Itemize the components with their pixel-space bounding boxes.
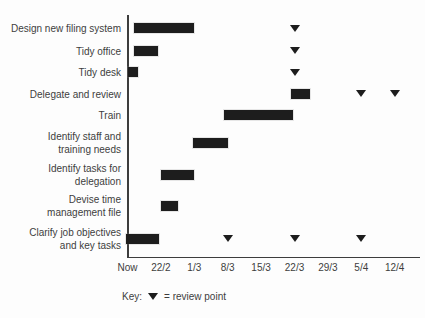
review-point-marker <box>290 235 300 242</box>
x-tick-label: Now <box>117 262 137 273</box>
gantt-chart-figure: Design new filing systemTidy officeTidy … <box>0 0 425 318</box>
task-bar <box>128 67 138 77</box>
x-tick-label: 5/4 <box>354 262 368 273</box>
y-axis-line <box>127 15 129 258</box>
review-point-marker <box>390 90 400 97</box>
task-bar <box>126 234 159 244</box>
task-bar <box>291 89 309 99</box>
key-prefix-label: Key: <box>122 291 142 302</box>
task-label: Clarify job objectives and key tasks <box>0 226 121 252</box>
task-label: Identify staff and training needs <box>0 130 121 156</box>
task-label: Tidy desk <box>0 66 121 79</box>
task-bar <box>224 110 292 120</box>
task-bar <box>134 46 157 56</box>
task-label: Delegate and review <box>0 87 121 100</box>
review-point-marker <box>356 90 366 97</box>
task-label: Identify tasks for delegation <box>0 162 121 188</box>
review-point-marker <box>223 235 233 242</box>
task-bar <box>134 23 194 33</box>
chart-key: Key: = review point <box>122 291 226 302</box>
review-point-marker <box>290 47 300 54</box>
task-label: Devise time management file <box>0 193 121 219</box>
key-meaning-label: = review point <box>164 291 226 302</box>
x-tick-label: 22/2 <box>151 262 170 273</box>
task-bar <box>161 170 194 180</box>
x-tick-label: 29/3 <box>318 262 337 273</box>
review-point-marker <box>356 235 366 242</box>
x-tick-label: 22/3 <box>285 262 304 273</box>
task-label: Tidy office <box>0 44 121 57</box>
task-label: Design new filing system <box>0 22 121 35</box>
x-tick-label: 1/3 <box>187 262 201 273</box>
task-bar <box>161 201 178 211</box>
task-bar <box>193 138 228 148</box>
review-point-marker <box>290 25 300 32</box>
x-axis-line <box>127 257 420 259</box>
review-point-icon <box>148 293 158 300</box>
x-tick-label: 8/3 <box>221 262 235 273</box>
review-point-marker <box>290 69 300 76</box>
task-label: Train <box>0 108 121 121</box>
x-tick-label: 12/4 <box>385 262 404 273</box>
x-tick-label: 15/3 <box>251 262 270 273</box>
